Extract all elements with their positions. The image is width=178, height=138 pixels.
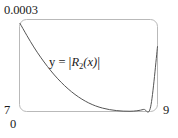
curve-label-subscript: 2 bbox=[79, 61, 83, 71]
curve-label-close-bar: | bbox=[97, 54, 100, 70]
curve-label-argument: (x) bbox=[83, 55, 97, 69]
curve-equation-label: y = |R2(x)| bbox=[49, 54, 100, 69]
curve-label-equals: = bbox=[55, 55, 68, 69]
plot-area bbox=[0, 0, 178, 138]
error-bound-figure: 0.0003 7 0 9 y = |R2(x)| bbox=[0, 0, 178, 138]
curve-label-function: R bbox=[71, 55, 79, 69]
